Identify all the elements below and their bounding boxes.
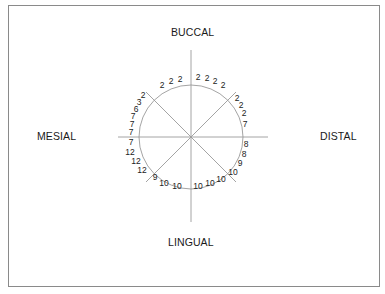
measurement-value: 8 [244, 139, 249, 149]
measurement-value: 10 [193, 181, 203, 191]
measurement-value: 2 [169, 76, 174, 86]
measurement-value: 2 [160, 80, 165, 90]
measurement-value: 10 [159, 178, 169, 188]
measurement-value: 10 [228, 167, 238, 177]
measurement-value: 2 [196, 72, 201, 82]
axes [118, 50, 268, 222]
measurement-value: 2 [178, 74, 183, 84]
measurement-value: 2 [242, 108, 247, 118]
measurement-value: 10 [205, 178, 215, 188]
measurement-value: 2 [205, 73, 210, 83]
measurement-value: 12 [125, 147, 135, 157]
measurement-value: 7 [243, 119, 248, 129]
measurement-value: 12 [131, 156, 141, 166]
measurement-value: 10 [216, 174, 226, 184]
measurement-value: 12 [137, 165, 147, 175]
measurement-value: 7 [129, 137, 134, 147]
measurement-value: 2 [141, 90, 146, 100]
tooth-circle-chart: 2222222222788910101010101091212127777632 [0, 0, 385, 294]
measurement-value: 10 [172, 181, 182, 191]
measurement-value: 9 [238, 158, 243, 168]
measurement-value: 2 [221, 80, 226, 90]
measurement-value: 9 [153, 172, 158, 182]
measurement-values: 2222222222788910101010101091212127777632 [125, 72, 248, 191]
measurement-value: 8 [242, 149, 247, 159]
measurement-value: 2 [213, 76, 218, 86]
